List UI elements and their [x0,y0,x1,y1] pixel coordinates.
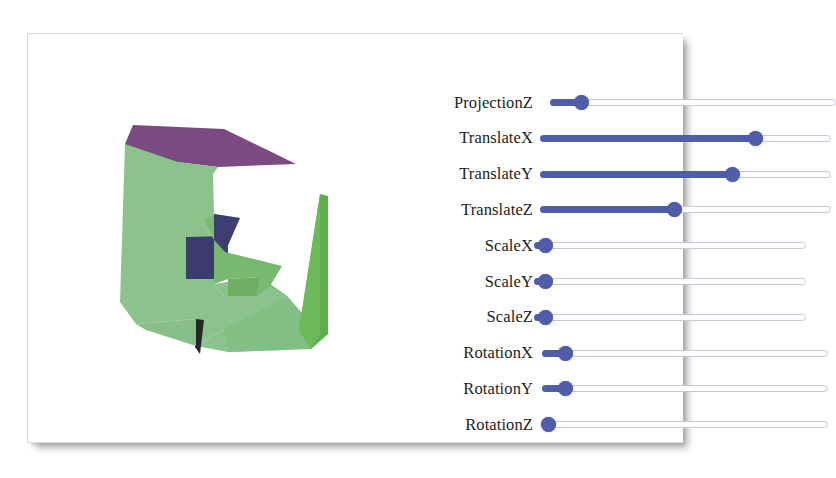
slider-label-projectionz: ProjectionZ [400,93,540,112]
transform-controls-panel: ProjectionZTranslateXTranslateYTranslate… [400,34,683,442]
3d-model-canvas [28,34,400,442]
slider-thumb-projectionz[interactable] [574,95,589,110]
slider-row-translatez: TranslateZ [400,196,683,222]
3d-model-viewport[interactable] [28,34,400,442]
slider-track-rotationx[interactable] [542,350,828,357]
slider-translatey[interactable] [540,163,683,185]
slider-fill-translatex [540,135,755,142]
slider-row-translatey: TranslateY [400,161,683,187]
slider-thumb-translatez[interactable] [667,202,682,217]
slider-thumb-rotationy[interactable] [558,381,573,396]
slider-track-rotationz[interactable] [542,421,828,428]
slider-row-scalez: ScaleZ [400,304,683,330]
slider-thumb-translatey[interactable] [725,167,740,182]
slider-rotationy[interactable] [540,377,683,399]
slider-track-projectionz[interactable] [550,99,836,106]
slider-translatex[interactable] [540,127,683,149]
slider-row-rotationx: RotationX [400,340,683,366]
slider-row-projectionz: ProjectionZ [400,89,683,115]
slider-label-translatex: TranslateX [400,128,540,147]
model-face-right-wing-left [299,194,320,349]
slider-label-translatey: TranslateY [400,164,540,183]
slider-scalex[interactable] [540,234,683,256]
slider-scaley[interactable] [540,270,683,292]
slider-track-scaley[interactable] [534,278,806,285]
slider-label-rotationz: RotationZ [400,415,540,434]
slider-label-translatez: TranslateZ [400,200,540,219]
slider-thumb-rotationz[interactable] [541,417,556,432]
slider-row-translatex: TranslateX [400,125,683,151]
slider-thumb-scalez[interactable] [538,310,553,325]
slider-label-rotationx: RotationX [400,343,540,362]
application-window: ProjectionZTranslateXTranslateYTranslate… [27,33,683,443]
slider-row-scaley: ScaleY [400,268,683,294]
slider-scalez[interactable] [540,306,683,328]
slider-translatez[interactable] [540,198,683,220]
slider-fill-translatez [540,206,674,213]
slider-fill-translatey [540,171,732,178]
slider-thumb-scalex[interactable] [538,238,553,253]
slider-label-rotationy: RotationY [400,379,540,398]
slider-row-rotationy: RotationY [400,375,683,401]
slider-track-rotationy[interactable] [542,385,828,392]
slider-thumb-rotationx[interactable] [558,346,573,361]
slider-row-scalex: ScaleX [400,232,683,258]
slider-thumb-translatex[interactable] [748,131,763,146]
slider-rotationz[interactable] [540,413,683,435]
slider-track-scalez[interactable] [534,314,806,321]
slider-label-scalex: ScaleX [400,236,540,255]
slider-projectionz[interactable] [540,91,683,113]
slider-rotationx[interactable] [540,342,683,364]
slider-label-scaley: ScaleY [400,272,540,291]
slider-label-scalez: ScaleZ [400,307,540,326]
slider-track-scalex[interactable] [534,242,806,249]
slider-thumb-scaley[interactable] [538,274,553,289]
slider-row-rotationz: RotationZ [400,411,683,437]
